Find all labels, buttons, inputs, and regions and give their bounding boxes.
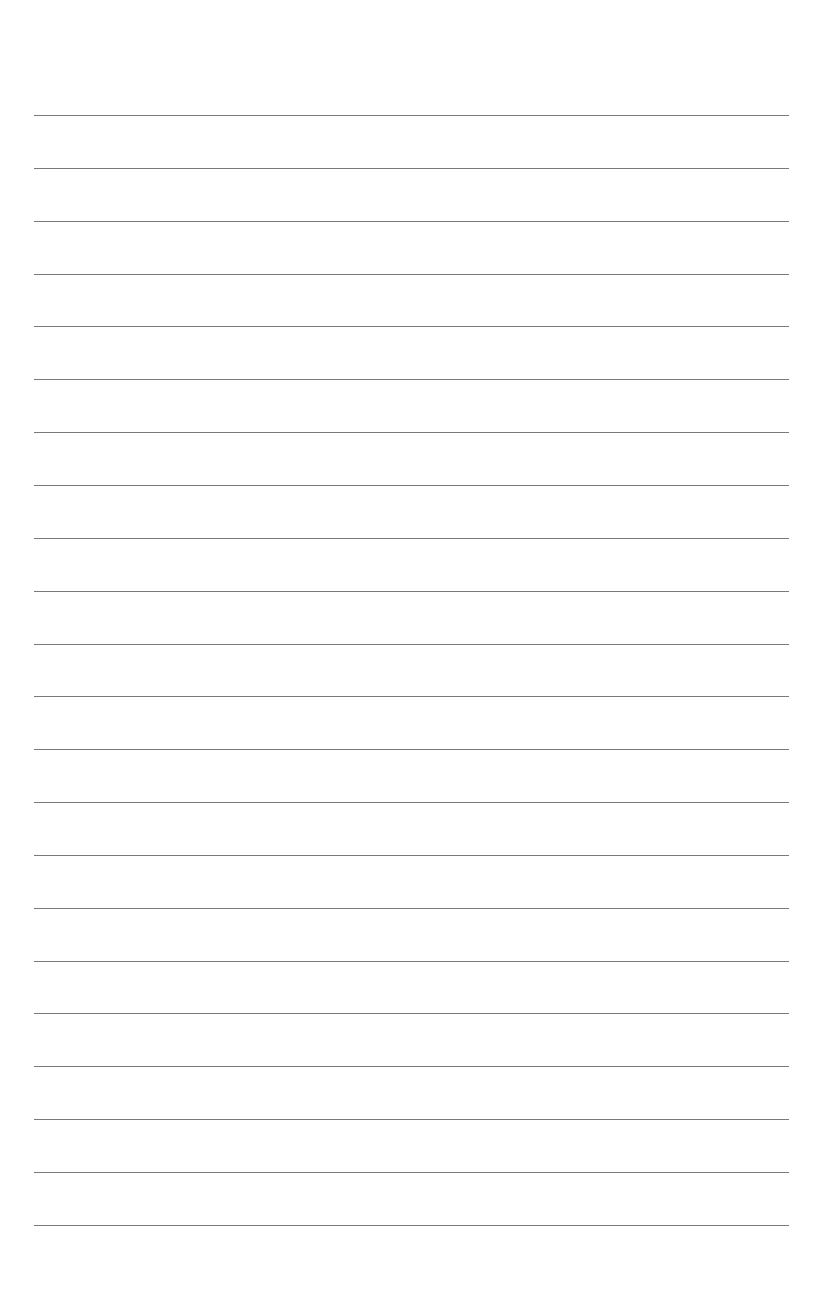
- ruled-line: [34, 749, 789, 750]
- ruled-line: [34, 855, 789, 856]
- ruled-line: [34, 961, 789, 962]
- ruled-line: [34, 485, 789, 486]
- ruled-line: [34, 326, 789, 327]
- ruled-line: [34, 1225, 789, 1226]
- lined-paper-page: [0, 0, 825, 1302]
- ruled-line: [34, 274, 789, 275]
- ruled-line: [34, 696, 789, 697]
- ruled-line: [34, 1066, 789, 1067]
- ruled-line: [34, 644, 789, 645]
- ruled-line: [34, 168, 789, 169]
- ruled-line: [34, 379, 789, 380]
- ruled-line: [34, 115, 789, 116]
- ruled-line: [34, 802, 789, 803]
- ruled-line: [34, 1013, 789, 1014]
- ruled-line: [34, 1119, 789, 1120]
- ruled-line: [34, 221, 789, 222]
- ruled-line: [34, 432, 789, 433]
- ruled-line: [34, 908, 789, 909]
- ruled-line: [34, 1172, 789, 1173]
- ruled-line: [34, 538, 789, 539]
- ruled-line: [34, 591, 789, 592]
